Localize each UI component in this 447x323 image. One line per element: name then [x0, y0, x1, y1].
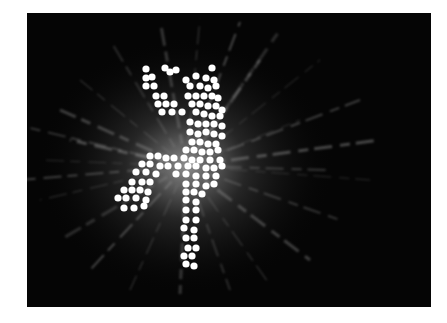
led-dot [182, 180, 189, 187]
led-dot [172, 66, 179, 73]
led-dot [214, 146, 221, 153]
led-dot [144, 188, 151, 195]
led-dot [182, 234, 189, 241]
led-dot [182, 170, 189, 177]
led-dot [138, 160, 145, 167]
led-dot [188, 100, 195, 107]
led-dot [198, 190, 205, 197]
led-dot [188, 156, 195, 163]
led-dot [192, 72, 199, 79]
led-dot [184, 92, 191, 99]
led-dot [182, 76, 189, 83]
led-dot [182, 146, 189, 153]
led-dot [190, 188, 197, 195]
led-dot [202, 74, 209, 81]
led-dot [204, 102, 211, 109]
led-dot [190, 226, 197, 233]
led-dot [114, 194, 121, 201]
led-dot [212, 82, 219, 89]
led-dot [194, 130, 201, 137]
led-dot [182, 216, 189, 223]
led-dot [178, 108, 185, 115]
led-dot [164, 162, 171, 169]
led-dot [122, 194, 129, 201]
led-dot [172, 170, 179, 177]
led-dot [202, 120, 209, 127]
led-dot [162, 154, 169, 161]
led-dot [154, 100, 161, 107]
led-dot [212, 102, 219, 109]
led-dot [128, 186, 135, 193]
led-dot [182, 188, 189, 195]
led-dot [168, 108, 175, 115]
led-dot [192, 216, 199, 223]
led-dot [218, 162, 225, 169]
led-dot [200, 110, 207, 117]
led-dot [182, 260, 189, 267]
led-dot [186, 118, 193, 125]
led-dot [192, 162, 199, 169]
led-dot [170, 100, 177, 107]
led-dot [146, 160, 153, 167]
led-dot [156, 162, 163, 169]
led-dot [200, 92, 207, 99]
led-dot [152, 92, 159, 99]
led-dot [120, 204, 127, 211]
led-dot [188, 138, 195, 145]
led-dot [142, 82, 149, 89]
led-dot [154, 152, 161, 159]
led-dot [184, 162, 191, 169]
led-dot [192, 180, 199, 187]
led-dot [202, 128, 209, 135]
led-dot [206, 148, 213, 155]
led-dot [196, 82, 203, 89]
led-dot [182, 196, 189, 203]
led-dot [186, 82, 193, 89]
led-dot [202, 164, 209, 171]
led-dot [214, 94, 221, 101]
led-dot [182, 206, 189, 213]
led-dot [184, 244, 191, 251]
led-dot [170, 154, 177, 161]
led-dot [204, 84, 211, 91]
led-dot [198, 148, 205, 155]
led-figure-scene [27, 13, 431, 307]
led-dot [210, 120, 217, 127]
led-dot [196, 100, 203, 107]
led-dot [208, 64, 215, 71]
led-dot [162, 100, 169, 107]
led-dot [192, 206, 199, 213]
led-dot [180, 224, 187, 231]
led-dot [146, 178, 153, 185]
led-dot [152, 170, 159, 177]
led-dot [174, 162, 181, 169]
led-dot [130, 204, 137, 211]
led-dot [132, 194, 139, 201]
led-dot [210, 164, 217, 171]
led-dot [196, 138, 203, 145]
led-dot [142, 168, 149, 175]
led-dot [210, 180, 217, 187]
led-dot [190, 262, 197, 269]
led-dot [186, 128, 193, 135]
led-dot [216, 112, 223, 119]
led-dot [192, 172, 199, 179]
led-dot [188, 252, 195, 259]
led-dot [212, 172, 219, 179]
led-dot [138, 178, 145, 185]
led-dot [180, 154, 187, 161]
led-dot [218, 132, 225, 139]
led-dot [202, 182, 209, 189]
led-dot [148, 73, 155, 80]
led-dot [140, 202, 147, 209]
led-dot [150, 82, 157, 89]
led-dot [180, 252, 187, 259]
led-dot [146, 152, 153, 159]
led-dot [136, 186, 143, 193]
led-dot [158, 108, 165, 115]
led-dot [190, 234, 197, 241]
led-dot [206, 156, 213, 163]
led-dot [142, 74, 149, 81]
led-dot [192, 198, 199, 205]
led-dot [192, 244, 199, 251]
